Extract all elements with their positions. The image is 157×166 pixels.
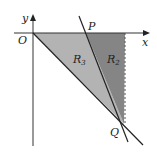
point-q-label: Q xyxy=(110,126,119,139)
diagram-canvas: y x O P Q R3 R2 xyxy=(0,0,157,166)
region-r2-letter: R xyxy=(106,53,115,66)
origin-label: O xyxy=(18,34,27,47)
region-r3-letter: R xyxy=(72,53,81,66)
x-axis-label: x xyxy=(142,36,149,49)
point-p-label: P xyxy=(87,20,96,33)
region-r2-subscript: 2 xyxy=(114,59,120,67)
y-axis-label: y xyxy=(21,12,29,25)
y-axis-arrow-icon xyxy=(30,14,36,21)
region-r3-subscript: 3 xyxy=(81,59,86,67)
